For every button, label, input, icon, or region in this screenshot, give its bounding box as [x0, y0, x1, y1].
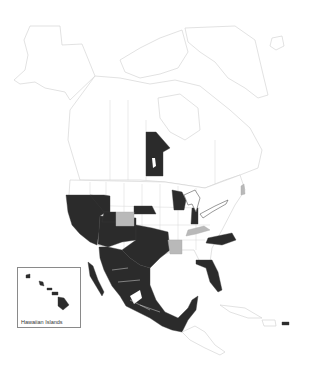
canada: [68, 76, 262, 188]
indiana: [191, 208, 198, 224]
cuba: [220, 305, 262, 318]
nebraska: [134, 206, 156, 214]
new-hampshire: [241, 184, 245, 195]
iceland: [270, 36, 284, 50]
baja-california: [88, 262, 104, 296]
hawaii-inset-label: Hawaiian Islands: [21, 319, 63, 325]
hawaii-inset: Hawaiian Islands: [17, 267, 81, 328]
arkansas: [168, 240, 182, 254]
arctic-archipelago: [120, 30, 188, 78]
hispaniola: [262, 320, 276, 326]
florida: [196, 260, 222, 292]
utah: [102, 212, 116, 222]
alaska: [14, 26, 95, 100]
central-america: [182, 326, 225, 355]
colorado: [116, 212, 134, 226]
puerto-rico: [282, 322, 289, 325]
